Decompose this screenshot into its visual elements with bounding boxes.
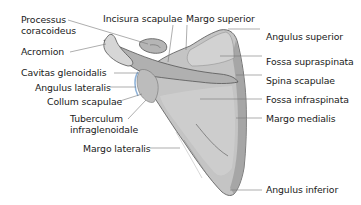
label-fossa-supraspinata: Fossa supraspinata: [266, 56, 354, 67]
label-tuberculum-infraglenoidale: Tuberculum infraglenoidale: [70, 113, 138, 135]
label-spina-scapulae: Spina scapulae: [266, 75, 335, 86]
label-line: Tuberculum: [70, 113, 138, 124]
label-angulus-superior: Angulus superior: [266, 31, 343, 42]
label-processus-coracoideus: Processus coracoideus: [21, 14, 76, 36]
processus-coracoideus-shape: [139, 39, 166, 54]
label-fossa-infraspinata: Fossa infraspinata: [266, 94, 349, 105]
label-line: Processus: [21, 14, 76, 25]
label-margo-lateralis: Margo lateralis: [83, 143, 151, 154]
label-line: infraglenoidale: [70, 124, 138, 135]
label-collum-scapulae: Collum scapulae: [47, 96, 122, 107]
label-line: coracoideus: [21, 25, 76, 36]
label-cavitas-glenoidalis: Cavitas glenoidalis: [21, 67, 107, 78]
label-angulus-inferior: Angulus inferior: [266, 184, 338, 195]
label-margo-superior: Margo superior: [186, 13, 255, 24]
label-acromion: Acromion: [21, 46, 64, 57]
scapula-diagram: Processus coracoideus Acromion Cavitas g…: [0, 0, 361, 205]
label-incisura-scapulae: Incisura scapulae: [103, 13, 182, 24]
label-margo-medialis: Margo medialis: [266, 113, 336, 124]
label-angulus-lateralis: Angulus lateralis: [35, 82, 111, 93]
